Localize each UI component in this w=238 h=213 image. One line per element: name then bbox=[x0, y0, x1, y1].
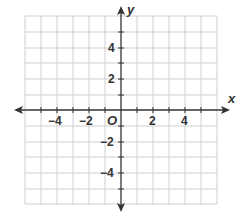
x-tick-label: −4 bbox=[48, 114, 62, 128]
y-tick-label: −2 bbox=[100, 135, 114, 149]
coordinate-plane: x y O −4 −2 2 4 4 2 −2 −4 bbox=[0, 0, 238, 213]
y-tick-label: 2 bbox=[108, 72, 115, 86]
x-tick-label: 2 bbox=[149, 114, 156, 128]
y-tick-label: −4 bbox=[100, 166, 114, 180]
y-axis-label: y bbox=[126, 2, 135, 17]
origin-label: O bbox=[107, 113, 117, 128]
x-axis-label: x bbox=[227, 91, 236, 106]
y-tick-label: 4 bbox=[108, 41, 115, 55]
x-tick-label: 4 bbox=[181, 114, 188, 128]
x-tick-label: −2 bbox=[79, 114, 93, 128]
